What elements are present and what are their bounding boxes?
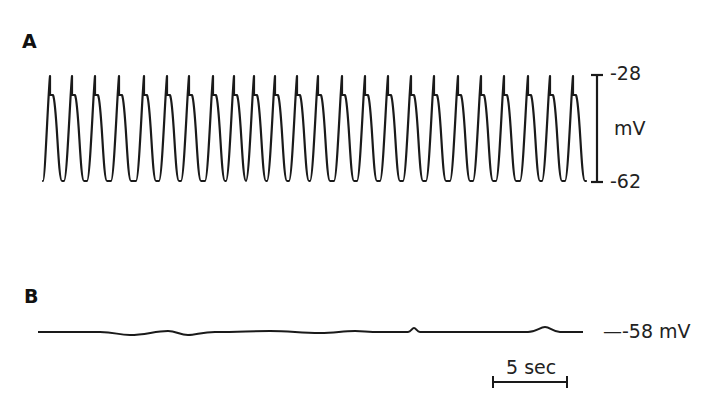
scale-a-bottom-label: -62 <box>610 170 641 192</box>
time-scale-label: 5 sec <box>506 356 556 378</box>
trace-a-oscillation <box>43 76 586 181</box>
scale-bar-a <box>591 75 603 182</box>
scale-a-unit-label: mV <box>614 117 646 139</box>
scale-b-level-label: —-58 mV <box>603 320 691 342</box>
figure-canvas <box>0 0 725 406</box>
trace-b-resting <box>38 327 583 335</box>
scale-a-top-label: -28 <box>610 62 641 84</box>
